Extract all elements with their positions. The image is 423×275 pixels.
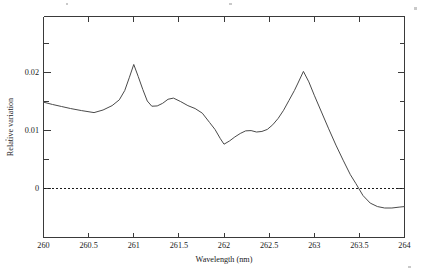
- x-tick-label: 263.5: [350, 241, 368, 250]
- x-tick-label: 261.5: [170, 241, 188, 250]
- y-axis-title: Relative variation: [6, 98, 15, 156]
- x-tick-label: 260.5: [79, 241, 97, 250]
- y-axis-ticks-right: [398, 43, 405, 188]
- y-tick-label: 0.01: [25, 126, 39, 135]
- scan-artifacts: [5, 3, 417, 268]
- x-tick-label: 260: [37, 241, 49, 250]
- x-axis-title: Wavelength (nm): [196, 255, 253, 264]
- plot-frame: [44, 17, 405, 238]
- x-axis-ticks-top: [44, 17, 405, 22]
- chart-figure: 260 260.5 261 261.5 262 262.5 263 263.5 …: [0, 0, 423, 275]
- y-axis-ticks: [44, 43, 51, 188]
- y-tick-labels: 0 0.01 0.02: [25, 68, 39, 193]
- y-tick-label: 0: [35, 184, 39, 193]
- x-tick-label: 264: [398, 241, 410, 250]
- x-tick-label: 262.5: [260, 241, 278, 250]
- x-tick-label: 261: [128, 241, 140, 250]
- x-tick-label: 263: [308, 241, 320, 250]
- x-tick-label: 262: [218, 241, 230, 250]
- line-chart: 260 260.5 261 261.5 262 262.5 263 263.5 …: [0, 0, 423, 275]
- y-tick-label: 0.02: [25, 68, 39, 77]
- x-tick-labels: 260 260.5 261 261.5 262 262.5 263 263.5 …: [37, 241, 410, 250]
- x-axis-ticks: [44, 233, 405, 238]
- spectrum-curve: [44, 64, 405, 208]
